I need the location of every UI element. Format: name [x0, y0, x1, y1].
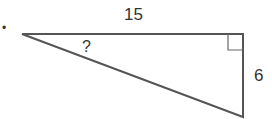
right-side-label: 6: [254, 67, 263, 84]
angle-label: ?: [82, 39, 91, 55]
top-side-label: 15: [124, 6, 143, 23]
right-angle-marker: [228, 34, 243, 50]
triangle: [22, 34, 243, 117]
